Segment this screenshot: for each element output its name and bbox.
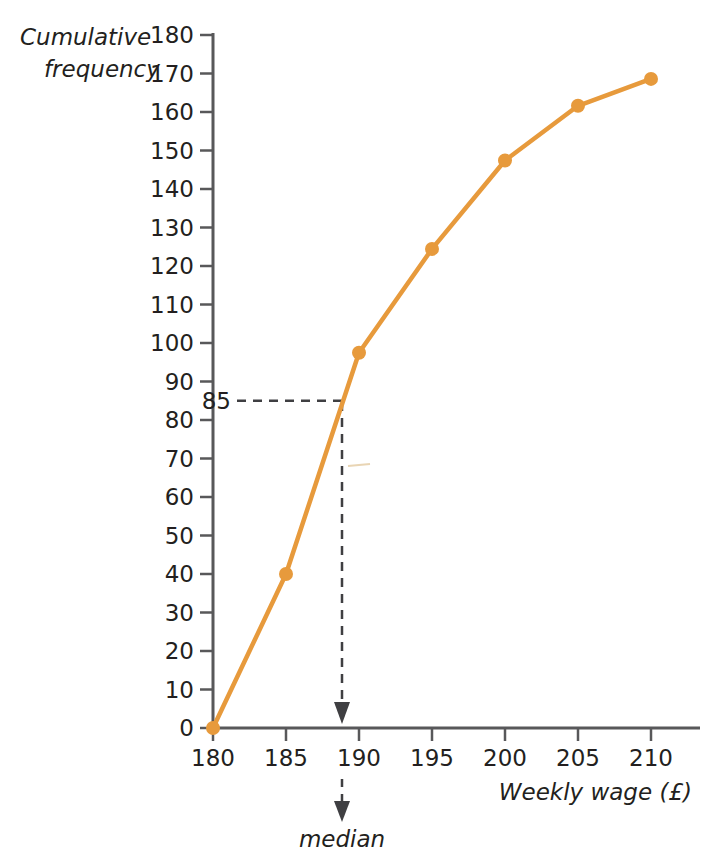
x-axis-ticks [213, 728, 651, 741]
y-tick-label: 110 [150, 292, 194, 318]
y-tick-label: 70 [165, 446, 194, 472]
data-point-marker [498, 154, 512, 168]
cumulative-frequency-chart: 180 170 160 150 140 130 120 110 100 90 8… [0, 0, 716, 852]
data-point-marker [425, 242, 439, 256]
y-tick-label: 160 [150, 99, 194, 125]
y-tick-label: 80 [165, 407, 194, 433]
data-point-marker [644, 72, 658, 86]
y-tick-label: 140 [150, 176, 194, 202]
data-point-markers [206, 72, 658, 735]
data-point-marker [279, 567, 293, 581]
y-tick-label: 130 [150, 215, 194, 241]
median-value-label: 85 [202, 388, 231, 414]
y-tick-label: 0 [179, 715, 194, 741]
x-tick-label: 185 [264, 745, 308, 771]
x-tick-label: 200 [483, 745, 527, 771]
x-tick-label: 180 [191, 745, 235, 771]
y-tick-label: 40 [165, 561, 194, 587]
x-tick-label: 195 [410, 745, 454, 771]
y-tick-label: 100 [150, 330, 194, 356]
y-tick-label: 60 [165, 484, 194, 510]
data-point-marker [206, 721, 220, 735]
y-tick-label: 180 [150, 22, 194, 48]
data-point-marker [571, 99, 585, 113]
y-axis-title-line1: Cumulative [20, 24, 151, 50]
y-tick-label: 120 [150, 253, 194, 279]
data-point-marker [352, 346, 366, 360]
x-axis-tick-labels: 180 185 190 195 200 205 210 [191, 745, 673, 771]
scan-artifact-mark [348, 464, 370, 466]
median-arrowhead-up-icon [334, 702, 350, 724]
y-axis-title: Cumulative frequency [20, 24, 160, 82]
y-tick-label: 50 [165, 523, 194, 549]
median-caption-arrowhead-icon [334, 801, 350, 822]
y-tick-label: 30 [165, 600, 194, 626]
cumulative-frequency-line [213, 79, 651, 728]
x-tick-label: 205 [556, 745, 600, 771]
y-tick-label: 90 [165, 369, 194, 395]
median-caption-label: median [299, 826, 385, 852]
y-axis-ticks [200, 35, 213, 728]
y-axis-title-line2: frequency [44, 56, 160, 82]
y-tick-label: 150 [150, 138, 194, 164]
y-tick-label: 20 [165, 638, 194, 664]
x-axis-title: Weekly wage (£) [499, 779, 692, 805]
x-tick-label: 190 [337, 745, 381, 771]
y-axis-tick-labels: 180 170 160 150 140 130 120 110 100 90 8… [150, 22, 194, 741]
x-tick-label: 210 [629, 745, 673, 771]
chart-canvas: 180 170 160 150 140 130 120 110 100 90 8… [0, 0, 716, 852]
y-tick-label: 10 [165, 677, 194, 703]
